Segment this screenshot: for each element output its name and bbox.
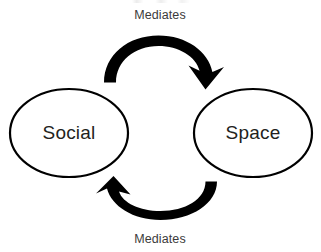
node-social[interactable]: Social (10, 89, 128, 177)
edge-social-to-space (104, 36, 224, 90)
top-edge-label-mediates: Mediates (134, 8, 186, 22)
bottom-curved-arrow-icon (96, 176, 217, 220)
diagram-canvas: Social Space Mediates Mediates (0, 0, 321, 252)
space-node-label: Space (226, 122, 281, 143)
edge-space-to-social (96, 176, 217, 220)
bottom-edge-label-mediates: Mediates (134, 232, 186, 246)
social-node-label: Social (43, 122, 96, 143)
node-space[interactable]: Space (194, 89, 312, 177)
top-curved-arrow-icon (104, 36, 224, 90)
mediates-cycle-diagram: Social Space Mediates Mediates (0, 0, 321, 252)
